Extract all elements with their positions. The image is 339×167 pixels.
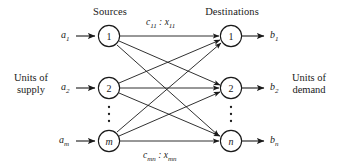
- demand-label-b2-sub: 2: [275, 87, 279, 95]
- sources-header: Sources: [86, 6, 134, 18]
- edge-label-top-x-sub: 11: [169, 22, 175, 30]
- supply-label-a2: a2: [61, 81, 70, 95]
- edge-s1-d3: [117, 45, 219, 136]
- supply-label-am: am: [59, 134, 69, 148]
- destination-node-1: 1: [220, 25, 241, 46]
- destination-ellipsis-icon: [230, 106, 232, 122]
- source-node-1: 1: [98, 25, 119, 46]
- source-node-2: 2: [98, 77, 119, 98]
- edge-group: [117, 36, 221, 141]
- transportation-network-diagram: 1 2 m 1 2 n: [0, 0, 339, 167]
- source-node-m-label: m: [105, 136, 112, 147]
- destination-node-2-label: 2: [229, 83, 234, 94]
- edge-s1-d2: [119, 41, 220, 85]
- edge-s2-d1: [119, 40, 220, 83]
- supply-arrows: [76, 36, 95, 141]
- demand-label-b2: b2: [270, 81, 279, 95]
- supply-label-am-sub: m: [64, 140, 69, 148]
- supply-label-a1-sub: 1: [66, 35, 70, 43]
- demand-label-b1: b1: [270, 29, 279, 43]
- source-node-1-label: 1: [107, 31, 112, 42]
- destinations-header: Destinations: [199, 6, 265, 18]
- edge-label-cmn-xmn: cmn : xmn: [143, 150, 176, 163]
- units-of-demand-line1: Units of: [281, 72, 337, 84]
- units-of-supply-caption: Units of supply: [2, 72, 60, 96]
- demand-arrows: [242, 36, 264, 141]
- destination-node-n: n: [220, 130, 241, 151]
- edge-label-c11-x11: c11 : x11: [146, 17, 175, 30]
- units-of-demand-caption: Units of demand: [281, 72, 337, 96]
- supply-label-a1: a1: [61, 29, 70, 43]
- destination-node-n-label: n: [229, 136, 234, 147]
- destination-node-2: 2: [220, 77, 241, 98]
- source-node-2-label: 2: [107, 83, 112, 94]
- demand-label-bn-sub: n: [275, 140, 279, 148]
- demand-label-bn: bn: [270, 134, 279, 148]
- edge-s3-d1: [117, 43, 221, 132]
- units-of-demand-line2: demand: [281, 84, 337, 96]
- edge-label-top-sep: :: [157, 17, 165, 27]
- demand-label-b1-sub: 1: [275, 35, 279, 43]
- edge-label-bottom-x-sub: mn: [168, 155, 177, 163]
- edge-label-bottom-c-sub: mn: [147, 155, 156, 163]
- supply-label-a2-sub: 2: [66, 87, 70, 95]
- source-node-m: m: [98, 130, 119, 151]
- source-ellipsis-icon: [108, 106, 110, 122]
- edge-label-bottom-sep: :: [156, 150, 164, 160]
- destination-node-1-label: 1: [229, 31, 234, 42]
- units-of-supply-line1: Units of: [2, 72, 60, 84]
- units-of-supply-line2: supply: [2, 84, 60, 96]
